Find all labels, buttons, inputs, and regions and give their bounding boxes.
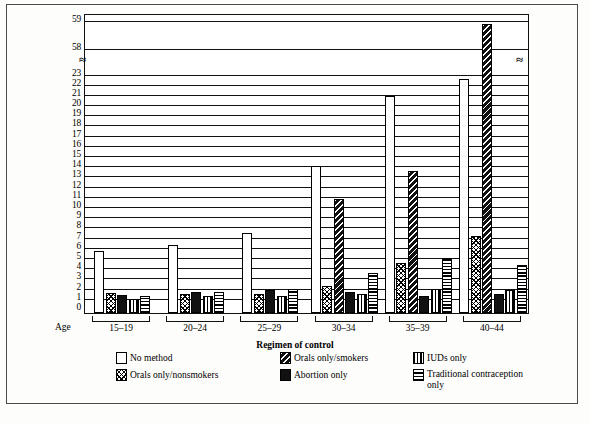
y-tick-label: 23 [72,69,81,79]
y-tick-label: 9 [76,211,81,221]
legend: No method Orals only/smokers IUDs only O… [116,352,536,386]
x-tick-label: 40–44 [455,322,529,334]
y-axis-tick-labels: 0123456789101112131415161718192021222358… [52,14,81,314]
y-tick-label: 2 [76,283,81,293]
y-tick-label: 17 [72,130,81,140]
bar [140,296,150,313]
y-tick-label: 7 [76,232,81,242]
x-tick-label: 25–29 [232,322,306,334]
bar [265,290,275,313]
bar-group [85,15,159,313]
y-tick-label: 1 [76,293,81,303]
y-tick-label: 19 [72,109,81,119]
y-tick-label: 10 [72,201,81,211]
y-tick-label: 11 [72,191,81,201]
bar [408,171,418,313]
y-tick-label: 12 [72,181,81,191]
bar [117,295,127,313]
bar [106,293,116,313]
legend-swatch-orals-nonsmokers-icon [116,369,127,381]
x-axis-title: Regimen of control [0,340,590,350]
y-tick-label: 58 [72,43,81,53]
legend-swatch-abortion-icon [280,369,291,381]
y-tick-label: 16 [72,140,81,150]
y-tick-label: 0 [76,303,81,313]
legend-label: Orals only/nonsmokers [130,369,218,381]
bar [494,294,504,313]
axis-break-icon: ≈ [79,56,86,64]
bar [482,24,492,313]
legend-item-iuds: IUDs only [413,352,467,364]
legend-label: Traditional contraception only [427,369,537,391]
legend-swatch-traditional-icon [413,369,424,381]
bar-group [159,15,233,313]
legend-row-1: No method Orals only/smokers IUDs only [116,352,536,369]
bar [517,265,527,313]
bar [357,294,367,313]
y-tick-label: 3 [76,272,81,282]
legend-row-2: Orals only/nonsmokers Abortion only Trad… [116,369,536,386]
bar [459,79,469,313]
plot-area: ≈≈ [84,14,529,314]
legend-label: IUDs only [427,352,467,364]
age-axis-label: Age [55,322,71,332]
y-tick-label: 15 [72,150,81,160]
bar [419,296,429,313]
bar [277,296,287,313]
legend-item-no-method: No method [116,352,172,364]
bar-group [308,15,382,313]
x-axis-groups: 15–1920–2425–2930–3435–3940–44 [84,316,529,336]
bar [322,286,332,313]
y-tick-label: 20 [72,99,81,109]
axis-break-icon: ≈ [516,56,523,64]
y-tick-label: 13 [72,170,81,180]
bar [242,233,252,313]
y-tick-label: 21 [72,89,81,99]
legend-label: No method [130,352,172,364]
bar [94,251,104,313]
y-tick-label: 4 [76,262,81,272]
bars-layer [85,15,528,313]
bar [471,236,481,313]
y-tick-label: 14 [72,160,81,170]
x-tick-label: 35–39 [381,322,455,334]
legend-swatch-no-method-icon [116,352,127,364]
bar [442,258,452,313]
bar-group [382,15,456,313]
y-tick-label: 18 [72,119,81,129]
bar [345,292,355,313]
y-tick-label: 6 [76,242,81,252]
bar [129,299,139,313]
y-tick-label: 5 [76,252,81,262]
bar [311,166,321,313]
bar [431,289,441,313]
y-tick-label: 22 [72,79,81,89]
x-tick-label: 15–19 [84,322,158,334]
bar [288,289,298,313]
figure-page: 0123456789101112131415161718192021222358… [0,0,590,423]
bar [368,273,378,313]
legend-swatch-orals-smokers-icon [280,352,291,364]
legend-label: Orals only/smokers [294,352,368,364]
legend-label: Abortion only [294,369,348,381]
bar [203,296,213,313]
legend-swatch-iuds-icon [413,352,424,364]
bar [254,294,264,313]
bar [385,96,395,313]
x-tick-label: 20–24 [158,322,232,334]
bar [180,294,190,313]
y-tick-label: 59 [72,15,81,25]
legend-item-traditional: Traditional contraception only [413,369,537,391]
bar [191,292,201,313]
bar [334,199,344,313]
y-tick-label: 8 [76,221,81,231]
legend-item-abortion: Abortion only [280,369,348,381]
legend-item-orals-smokers: Orals only/smokers [280,352,368,364]
x-tick-label: 30–34 [307,322,381,334]
bar [505,290,515,313]
bar [214,292,224,313]
legend-item-orals-nonsmokers: Orals only/nonsmokers [116,369,218,381]
bar [396,263,406,313]
bar [168,245,178,313]
bar-group [233,15,307,313]
